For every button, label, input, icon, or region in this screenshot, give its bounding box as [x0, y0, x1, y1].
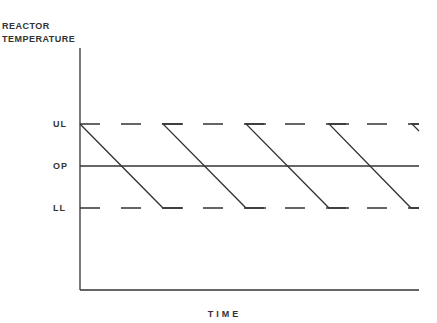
temperature-sawtooth: [412, 124, 419, 131]
plot-area: [0, 0, 437, 323]
x-axis-label: TIME: [0, 309, 437, 319]
